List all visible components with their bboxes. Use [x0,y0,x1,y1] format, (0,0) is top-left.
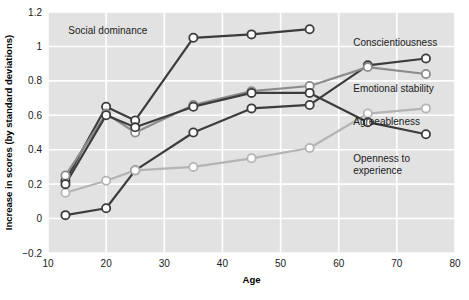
y-axis-tick-label: 0.2 [28,179,42,190]
series-marker [131,166,139,174]
x-axis-tick-label: 70 [391,258,403,269]
series-marker [189,128,197,136]
series-marker [61,189,69,197]
x-axis-tick-label: 50 [275,258,287,269]
series-marker [189,163,197,171]
x-axis-tick-label: 30 [159,258,171,269]
line-chart: 1.210.80.60.40.20−0.21020304050607080Age… [0,0,469,300]
series-marker [247,30,255,38]
series-marker [306,89,314,97]
series-marker [189,34,197,42]
series-label: Social dominance [68,25,147,36]
series-marker [102,204,110,212]
series-marker [189,103,197,111]
series-label: Agreeableness [353,116,420,127]
x-axis-tick-label: 10 [42,258,54,269]
y-axis-title: Increase in scores (by standard deviatio… [3,35,14,230]
x-axis-tick-label: 60 [333,258,345,269]
y-axis-tick-label: 0.4 [28,144,42,155]
series-marker [422,54,430,62]
series-marker [422,104,430,112]
series-marker [61,180,69,188]
series-marker [247,89,255,97]
series-label: Conscientiousness [353,37,437,48]
series-marker [422,70,430,78]
x-axis-tick-label: 20 [101,258,113,269]
series-marker [306,25,314,33]
series-label: Emotional stability [353,83,434,94]
series-label: experience [353,165,402,176]
chart-container: 1.210.80.60.40.20−0.21020304050607080Age… [0,0,469,300]
y-axis-tick-label: 0.8 [28,75,42,86]
y-axis-tick-label: −0.2 [22,248,42,259]
y-axis-tick-label: 0.6 [28,110,42,121]
series-marker [61,171,69,179]
series-marker [247,154,255,162]
y-axis-tick-label: 0 [36,213,42,224]
series-marker [306,144,314,152]
series-marker [102,177,110,185]
series-marker [364,63,372,71]
series-marker [247,104,255,112]
y-axis-tick-label: 1 [36,41,42,52]
x-axis-tick-label: 80 [449,258,461,269]
series-marker [306,101,314,109]
series-marker [61,211,69,219]
series-marker [102,111,110,119]
series-marker [422,130,430,138]
series-marker [131,123,139,131]
series-label: Openness to [353,153,410,164]
x-axis-title: Age [243,274,261,285]
x-axis-tick-label: 40 [217,258,229,269]
y-axis-tick-label: 1.2 [28,7,42,18]
